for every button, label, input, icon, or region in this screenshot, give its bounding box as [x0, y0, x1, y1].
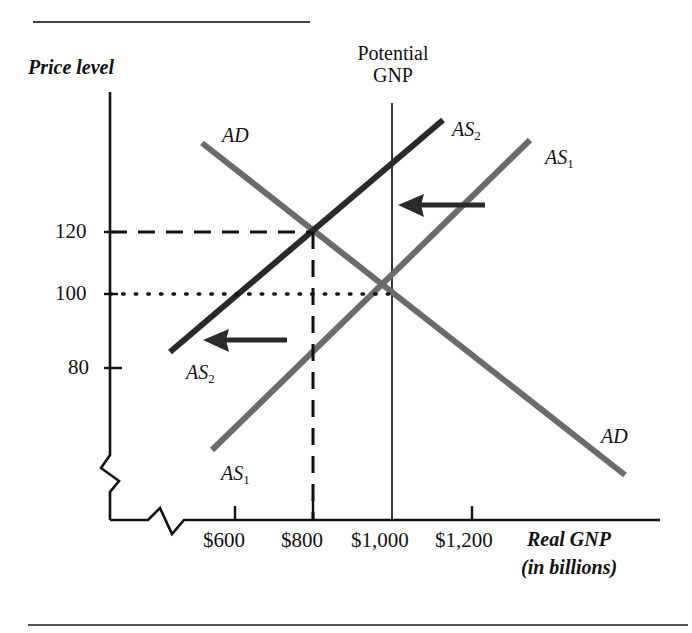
as1-label-upper-right-subscript: 1 — [567, 156, 574, 171]
y-tick-label-100: 100 — [55, 281, 87, 306]
y-axis-title: Price level — [28, 56, 114, 79]
potential-gnp-annotation: Potential GNP — [318, 42, 468, 87]
ad-curve — [202, 143, 625, 475]
as2-label-upper-subscript: 2 — [474, 128, 481, 143]
y-axis — [101, 92, 119, 520]
x-tick-label-600: $600 — [203, 528, 245, 553]
x-tick-label-1200: $1,200 — [435, 528, 493, 553]
x-axis-title-line1: Real GNP — [527, 528, 611, 551]
shift-arrow-lower — [203, 329, 287, 352]
ad-label-lower-right: AD — [601, 425, 628, 448]
as2-label-upper-text: AS — [452, 118, 474, 140]
x-tick-label-1000: $1,000 — [351, 528, 409, 553]
potential-gnp-line1: Potential — [318, 42, 468, 64]
as2-curve — [170, 120, 443, 352]
as2-label-lower: AS2 — [186, 361, 215, 387]
as2-label-upper: AS2 — [452, 118, 481, 144]
as2-label-lower-text: AS — [186, 361, 208, 383]
figure-aggregate-supply-shift: Price level Potential GNP AD AD AS2 AS1 … — [0, 0, 692, 633]
ad-label-upper-left: AD — [222, 124, 249, 147]
potential-gnp-line2: GNP — [318, 64, 468, 86]
as1-label-upper-right-text: AS — [545, 146, 567, 168]
as1-label-lower-left-text: AS — [221, 462, 243, 484]
as1-label-upper-right: AS1 — [545, 146, 574, 172]
y-tick-label-120: 120 — [55, 219, 87, 244]
as1-label-lower-left-subscript: 1 — [243, 472, 250, 487]
as2-label-lower-subscript: 2 — [208, 371, 215, 386]
x-tick-label-800: $800 — [281, 528, 323, 553]
as1-label-lower-left: AS1 — [221, 462, 250, 488]
x-axis-title-line2: (in billions) — [521, 556, 617, 579]
y-tick-label-80: 80 — [68, 355, 89, 380]
